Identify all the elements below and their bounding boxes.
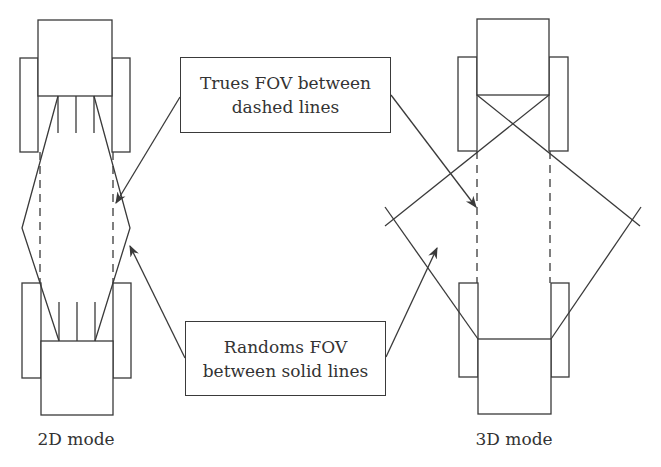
side-shield-left	[22, 283, 41, 378]
side-shield-right	[112, 58, 130, 152]
randoms-arrow-2d	[130, 246, 185, 358]
detector-block	[477, 19, 549, 95]
randoms-fov-line	[385, 207, 478, 339]
trues-callout-line1: Trues FOV between	[200, 71, 371, 95]
detector-2d-bottom	[22, 283, 131, 415]
randoms-callout-line2: between solid lines	[203, 359, 369, 383]
side-shield-left	[458, 57, 477, 151]
randoms-callout-line1: Randoms FOV	[224, 335, 347, 359]
scanner-2d	[20, 20, 131, 415]
mode-label-3d: 3D mode	[458, 428, 570, 451]
detector-2d-top	[20, 20, 130, 152]
detector-block	[38, 20, 112, 96]
randoms-fov-callout: Randoms FOV between solid lines	[185, 321, 386, 396]
mode-label-2d: 2D mode	[20, 428, 132, 451]
randoms-arrow-3d	[386, 248, 437, 357]
side-shield-left	[20, 58, 38, 152]
trues-fov-callout: Trues FOV between dashed lines	[180, 57, 391, 133]
randoms-fov-line	[551, 207, 641, 339]
scanner-3d	[385, 19, 641, 414]
side-shield-right	[549, 57, 568, 151]
trues-callout-line2: dashed lines	[232, 95, 340, 119]
detector-3d-bottom	[459, 283, 569, 414]
side-shield-left	[459, 283, 478, 377]
detector-block	[41, 341, 113, 415]
detector-3d-top	[458, 19, 568, 151]
side-shield-right	[113, 283, 131, 378]
detector-block	[478, 339, 551, 414]
side-shield-right	[551, 283, 569, 377]
